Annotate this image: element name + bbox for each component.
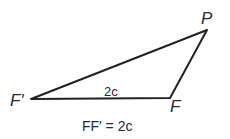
vertex-label-f-prime: F′ <box>10 92 24 109</box>
triangle-fpf <box>31 30 207 99</box>
side-label-2c: 2c <box>104 85 118 98</box>
caption: FF′ = 2c <box>82 119 132 133</box>
vertex-label-f: F <box>170 98 180 115</box>
vertex-label-p: P <box>201 10 212 27</box>
